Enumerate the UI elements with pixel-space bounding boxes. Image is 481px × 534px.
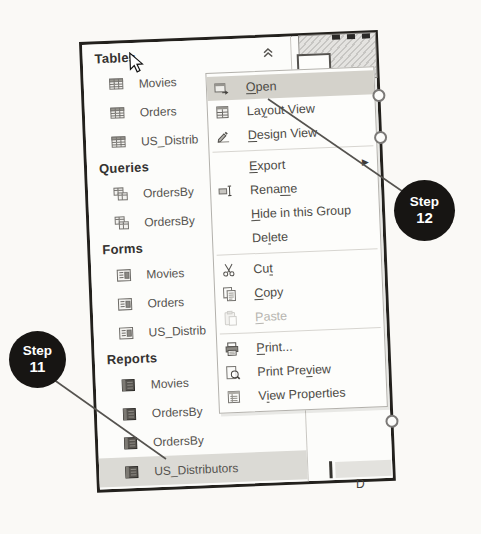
nav-item-label: Movies: [146, 265, 185, 281]
menu-item-label: Print Preview: [257, 362, 331, 379]
cut-icon: [220, 262, 238, 279]
open-icon: [213, 80, 231, 97]
nav-item-label: US_Distributors: [154, 460, 239, 477]
menu-item-label: Print...: [256, 340, 293, 355]
handle-circle-fragment: [385, 414, 399, 428]
menu-item-label: Hide in this Group: [251, 203, 352, 221]
print-icon: [223, 341, 241, 358]
query-icon: [112, 186, 130, 203]
menu-item-label: Cut: [253, 261, 273, 276]
background-text-fragment: D: [356, 477, 365, 491]
menu-item-label: View Properties: [258, 386, 346, 403]
report-icon: [119, 376, 137, 393]
menu-item-label: Paste: [255, 309, 288, 324]
menu-item-label: Rename: [250, 181, 298, 197]
nav-item-label: Movies: [150, 375, 189, 391]
report-icon: [121, 405, 139, 422]
collapse-chevron-icon[interactable]: [261, 46, 274, 59]
nav-item-label: Orders: [147, 294, 184, 309]
design-view-icon: [215, 128, 233, 145]
nav-item-label: OrdersBy: [152, 404, 203, 420]
step-callout-number: 12: [416, 210, 433, 226]
form-icon: [116, 296, 134, 313]
step-11-callout: Step 11: [9, 331, 66, 388]
nav-item-label: OrdersBy: [153, 433, 204, 449]
nav-item-label: US_Distrib: [148, 323, 206, 339]
layout-view-icon: [214, 104, 232, 121]
table-icon: [109, 105, 127, 122]
none-icon: [218, 207, 236, 224]
nav-section-title: Queries: [99, 159, 149, 176]
query-icon: [113, 215, 131, 232]
table-icon: [107, 76, 125, 93]
nav-item-label: Movies: [138, 75, 177, 91]
submenu-arrow-icon: ▶: [362, 157, 369, 166]
book-page: TablesMoviesOrdersUS_DistribQueriesOrder…: [0, 0, 481, 534]
handle-circle-fragment: [374, 131, 388, 145]
hatch-ticks: [332, 33, 370, 40]
none-icon: [219, 231, 237, 248]
menu-item-label: Design View: [248, 126, 318, 143]
nav-section-title: Forms: [102, 241, 143, 258]
nav-section-title: Reports: [106, 350, 157, 367]
menu-item-label: Copy: [254, 285, 284, 300]
menu-item-label: Open: [246, 79, 277, 94]
report-icon: [122, 434, 140, 451]
menu-item-label: Export: [249, 158, 286, 173]
mouse-cursor-icon: [128, 51, 144, 74]
copy-icon: [221, 286, 239, 303]
menu-item-label: Layout View: [247, 102, 315, 119]
background-band-fragment: [335, 460, 392, 478]
paste-icon: [222, 310, 240, 327]
background-line-fragment: [329, 461, 333, 478]
form-icon: [117, 325, 135, 342]
form-icon: [115, 267, 133, 284]
step-12-callout: Step 12: [394, 180, 455, 241]
step-callout-number: 11: [30, 359, 46, 375]
none-icon: [216, 159, 234, 176]
view-properties-icon: [225, 389, 243, 406]
step-callout-label: Step: [410, 195, 439, 210]
nav-item-label: Orders: [140, 104, 177, 119]
nav-item-label: US_Distrib: [141, 132, 199, 148]
nav-item-label: OrdersBy: [143, 184, 194, 200]
report-icon: [123, 463, 141, 480]
context-menu: OpenLayout ViewDesign ViewExport▶RenameH…: [205, 66, 388, 414]
step-callout-label: Step: [23, 344, 52, 359]
print-preview-icon: [224, 365, 242, 382]
screenshot-frame: TablesMoviesOrdersUS_DistribQueriesOrder…: [79, 30, 396, 493]
rename-icon: [217, 183, 235, 200]
menu-item-label: Delete: [252, 230, 289, 245]
nav-item-label: OrdersBy: [144, 213, 195, 229]
handle-circle-fragment: [372, 89, 386, 103]
table-icon: [110, 134, 128, 151]
